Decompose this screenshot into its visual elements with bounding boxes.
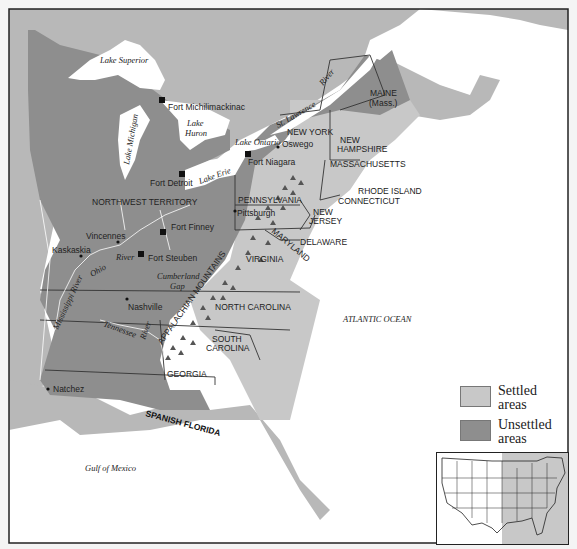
fort-steuben-label: Fort Steuben [148,253,197,263]
cumberland-label-1: Cumberland [157,271,200,281]
us-outline-map [437,453,568,544]
unsettled-swatch [460,420,491,441]
gulf-of-mexico-label: Gulf of Mexico [85,463,136,473]
fort-steuben-icon [138,251,144,257]
fort-michilimackinac-icon [159,97,165,103]
south-carolina-label-2: CAROLINA [206,343,250,353]
fort-niagara-label: Fort Niagara [248,157,296,167]
legend-label-unsettled: Unsettled [498,418,552,432]
vincennes-label: Vincennes [86,231,126,241]
new-hampshire-label-2: HAMPSHIRE [337,144,388,154]
lake-huron-label-2: Huron [184,128,207,138]
nashville-label: Nashville [128,302,163,312]
legend-item-unsettled: Unsettled areas [460,418,560,446]
legend: Settled areas Unsettled areas [460,384,560,452]
atlantic-ocean-label: ATLANTIC OCEAN [342,314,413,324]
northwest-territory-label: NORTHWEST TERRITORY [92,197,198,207]
delaware-label: DELAWARE [300,237,347,247]
virginia-label: VIRGINIA [246,254,284,264]
rhode-island-label: RHODE ISLAND [358,186,422,196]
lake-superior-label: Lake Superior [99,55,149,65]
maine-mass-label: (Mass.) [369,98,398,108]
pennsylvania-label: PENNSYLVANIA [238,195,302,205]
new-jersey-label-2: JERSEY [309,216,342,226]
north-carolina-label: NORTH CAROLINA [215,302,291,312]
maine-label: MAINE [370,88,397,98]
georgia-label: GEORGIA [167,369,207,379]
nashville-dot [125,297,128,300]
fort-finney-label: Fort Finney [171,222,215,232]
natchez-label: Natchez [53,384,84,394]
legend-label-settled-2: areas [498,398,537,412]
legend-item-settled: Settled areas [460,384,560,412]
settled-swatch [460,386,491,407]
legend-label-unsettled-2: areas [498,432,552,446]
pittsburgh-label: Pittsburgh [237,208,276,218]
lake-ontario-label: Lake Ontario [234,137,281,147]
lake-huron-label-1: Lake [186,118,204,128]
connecticut-label: CONNECTICUT [338,196,400,206]
fort-michilimackinac-label: Fort Michilimackinac [168,102,246,112]
oswego-label: Oswego [282,139,313,149]
us-locator-inset [436,452,569,545]
river-label: River [115,252,135,262]
cumberland-label-2: Gap [170,281,185,291]
natchez-dot [46,387,49,390]
legend-label-settled: Settled [498,384,537,398]
kaskaskia-label: Kaskaskia [52,245,91,255]
new-york-label: NEW YORK [287,127,333,137]
fort-detroit-label: Fort Detroit [150,178,193,188]
fort-finney-icon [160,229,166,235]
massachusetts-label: MASSACHUSETTS [330,159,406,169]
fort-detroit-icon [179,171,185,177]
